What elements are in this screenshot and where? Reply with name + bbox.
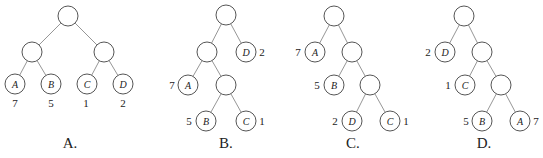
tree-edge (468, 25, 477, 43)
node-label: C (462, 80, 469, 91)
node-circle (197, 42, 217, 62)
node-weight: 7 (12, 97, 18, 109)
node-circle (58, 6, 78, 26)
internal-node (58, 6, 78, 26)
node-weight: 1 (445, 79, 451, 91)
leaf-node-a: A7 (5, 74, 25, 109)
node-label: C (84, 79, 91, 90)
node-weight: 2 (259, 46, 265, 58)
node-circle (360, 75, 380, 95)
tree-edge (193, 61, 202, 77)
leaf-node-a: A7 (169, 75, 198, 95)
node-label: B (48, 79, 54, 90)
tree-edge (357, 61, 365, 76)
leaf-node-d: D2 (332, 111, 362, 131)
tree-edge (339, 61, 347, 76)
node-weight: 1 (83, 97, 89, 109)
option-label: C. (346, 135, 360, 151)
leaf-node-a: A7 (295, 42, 325, 62)
tree-edge (92, 61, 100, 75)
node-label: D (440, 47, 449, 58)
tree-edge (450, 25, 460, 43)
internal-node (342, 42, 362, 62)
leaf-node-c: C1 (380, 111, 409, 131)
tree-edge (211, 94, 221, 113)
tree-edge (231, 24, 241, 43)
node-label: A (11, 79, 19, 90)
internal-node (360, 75, 380, 95)
leaf-node-b: B5 (186, 111, 216, 131)
huffman-tree-options-figure: A7B5C1D2A.D2A7B5C1B.A7B5D2C1C.D2C1B5A7D. (0, 0, 543, 158)
node-label: B (479, 116, 485, 127)
tree-edge (320, 25, 330, 43)
node-label: D (241, 47, 250, 58)
node-circle (491, 75, 511, 95)
node-weight: 7 (533, 115, 539, 127)
node-weight: 5 (186, 115, 192, 127)
tree-option-c: A7B5D2C1C. (295, 6, 409, 151)
tree-edge (109, 61, 118, 76)
node-label: A (184, 80, 192, 91)
node-label: B (331, 80, 337, 91)
node-weight: 5 (463, 115, 469, 127)
internal-node (324, 6, 344, 26)
tree-edge (487, 94, 497, 112)
internal-node (472, 42, 492, 62)
leaf-node-a: A7 (510, 111, 539, 131)
tree-edge (75, 23, 97, 45)
tree-option-d: D2C1B5A7D. (425, 6, 539, 151)
tree-edge (231, 94, 241, 113)
tree-edge (375, 94, 385, 113)
tree-option-b: D2A7B5C1B. (169, 5, 265, 151)
node-weight: 5 (48, 97, 54, 109)
node-circle (94, 42, 114, 62)
leaf-node-b: B5 (41, 74, 61, 109)
node-circle (342, 42, 362, 62)
tree-edge (487, 61, 496, 77)
internal-node (216, 75, 236, 95)
node-label: C (243, 116, 250, 127)
option-label: D. (477, 135, 492, 151)
node-weight: 1 (259, 115, 265, 127)
leaf-node-b: B5 (463, 111, 492, 131)
leaf-node-c: C1 (445, 75, 475, 95)
tree-option-a: A7B5C1D2A. (5, 6, 133, 151)
tree-edge (338, 25, 347, 43)
node-weight: 5 (314, 79, 320, 91)
internal-node (197, 42, 217, 62)
internal-node (216, 5, 236, 25)
tree-edge (356, 94, 365, 112)
node-label: A (311, 47, 319, 58)
tree-edge (470, 61, 478, 76)
node-circle (454, 6, 474, 26)
tree-edge (20, 61, 28, 75)
node-weight: 1 (403, 115, 409, 127)
leaf-node-b: B5 (314, 75, 344, 95)
tree-edge (39, 23, 61, 45)
node-weight: 2 (332, 115, 338, 127)
leaf-node-d: D2 (425, 42, 455, 62)
node-circle (216, 75, 236, 95)
node-circle (472, 42, 492, 62)
leaf-node-c: C1 (236, 111, 265, 131)
internal-node (94, 42, 114, 62)
tree-edge (212, 24, 222, 43)
leaf-node-c: C1 (77, 74, 97, 109)
node-weight: 2 (425, 46, 431, 58)
leaf-node-d: D2 (236, 42, 265, 62)
internal-node (454, 6, 474, 26)
tree-edge (506, 94, 516, 112)
node-label: D (118, 79, 127, 90)
node-circle (22, 42, 42, 62)
internal-node (22, 42, 42, 62)
node-label: B (203, 116, 209, 127)
node-weight: 2 (120, 97, 126, 109)
node-weight: 7 (169, 79, 175, 91)
tree-edge (37, 61, 46, 76)
option-label: B. (219, 135, 233, 151)
option-label: A. (63, 135, 78, 151)
leaf-node-d: D2 (113, 74, 133, 109)
node-label: D (347, 116, 356, 127)
node-circle (216, 5, 236, 25)
tree-edge (212, 61, 221, 77)
